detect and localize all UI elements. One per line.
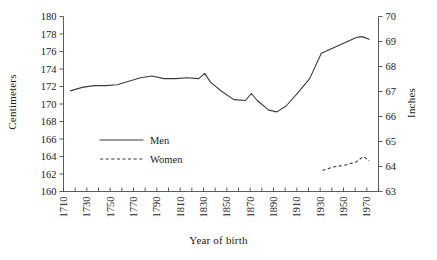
x-axis-tick-label: 1890 bbox=[268, 197, 279, 218]
y-axis-right-tick-label: 66 bbox=[386, 111, 397, 122]
x-axis-tick-label: 1710 bbox=[58, 197, 69, 218]
y-axis-left-tick-label: 162 bbox=[41, 169, 57, 180]
x-axis-tick-label: 1790 bbox=[151, 197, 162, 218]
x-axis-tick-label: 1750 bbox=[105, 197, 116, 218]
x-axis-tick-label: 1850 bbox=[221, 197, 232, 218]
x-axis-tick-label: 1730 bbox=[81, 197, 92, 218]
y-axis-left-tick-label: 164 bbox=[41, 151, 58, 162]
y-axis-left-tick-label: 168 bbox=[41, 116, 57, 127]
y-axis-right-tick-label: 67 bbox=[386, 86, 397, 97]
y-axis-left-tick-label: 172 bbox=[41, 81, 57, 92]
y-axis-right-tick-label: 69 bbox=[386, 36, 397, 47]
y-axis-right-tick-label: 68 bbox=[386, 61, 397, 72]
y-axis-right-tick-label: 63 bbox=[386, 186, 397, 197]
x-axis-title: Year of birth bbox=[0, 234, 437, 246]
y-axis-left-tick-label: 176 bbox=[41, 46, 57, 57]
series-line-women bbox=[323, 157, 370, 171]
height-by-year-of-birth-chart: 160162164166168170172174176178180 636465… bbox=[0, 0, 437, 260]
y-axis-left-title: Centimeters bbox=[5, 57, 19, 147]
y-axis-right-title-text: Inches bbox=[405, 88, 417, 118]
x-axis-tick-label: 1950 bbox=[338, 197, 349, 218]
legend-label-women: Women bbox=[150, 154, 183, 165]
y-axis-left-tick-label: 170 bbox=[41, 99, 57, 110]
y-axis-right-tick-label: 64 bbox=[386, 161, 397, 172]
x-axis-tick-label: 1930 bbox=[315, 197, 326, 218]
x-axis-tick-label: 1830 bbox=[198, 197, 209, 218]
y-axis-left-tick-label: 174 bbox=[41, 64, 58, 75]
series-line-men bbox=[71, 37, 370, 112]
y-axis-right-title: Inches bbox=[404, 73, 418, 133]
y-axis-left-tick-label: 160 bbox=[41, 186, 57, 197]
y-axis-left-tick-label: 178 bbox=[41, 29, 57, 40]
y-axis-right-ticks: 6364656667686970 bbox=[379, 11, 397, 197]
legend-label-men: Men bbox=[150, 135, 170, 146]
x-axis-tick-label: 1870 bbox=[245, 197, 256, 218]
y-axis-left-tick-label: 180 bbox=[41, 11, 57, 22]
y-axis-left-tick-label: 166 bbox=[41, 134, 57, 145]
x-axis-tick-label: 1810 bbox=[175, 197, 186, 218]
x-axis-tick-label: 1970 bbox=[361, 197, 372, 218]
x-axis-tick-label: 1910 bbox=[291, 197, 302, 218]
y-axis-right-tick-label: 65 bbox=[386, 136, 397, 147]
y-axis-left-ticks: 160162164166168170172174176178180 bbox=[41, 11, 64, 197]
y-axis-right-tick-label: 70 bbox=[386, 11, 397, 22]
x-axis-ticks: 1710173017501770179018101830185018701890… bbox=[58, 188, 378, 218]
x-axis-tick-label: 1770 bbox=[128, 197, 139, 218]
y-axis-left-title-text: Centimeters bbox=[6, 74, 18, 129]
chart-legend: Men Women bbox=[100, 135, 183, 165]
chart-plot-area: 160162164166168170172174176178180 636465… bbox=[0, 0, 437, 260]
